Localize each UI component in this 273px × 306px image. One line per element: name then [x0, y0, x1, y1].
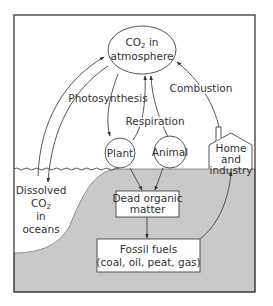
node-plant: Plant: [105, 138, 135, 168]
label-photosynthesis: Photosynthesis: [68, 92, 147, 104]
label-respiration: Respiration: [125, 115, 184, 127]
carbon-cycle-diagram: CO2 in atmosphere Photosynthesis Respira…: [0, 0, 273, 306]
node-dead-organic-matter: Dead organic matter: [113, 191, 183, 217]
plant-label: Plant: [107, 147, 133, 159]
oceans-subscript: 2: [47, 203, 51, 211]
node-atmosphere: CO2 in atmosphere: [108, 26, 176, 74]
oceans-label-line3: in: [36, 210, 46, 222]
oceans-label-line1: Dissolved: [16, 184, 67, 196]
atmosphere-label-line2: atmosphere: [111, 50, 174, 62]
atmosphere-in-text: in: [146, 36, 159, 48]
dead-matter-label-line2: matter: [130, 203, 166, 215]
atmosphere-co-text: CO: [126, 36, 142, 48]
oceans-label-line4: oceans: [22, 223, 59, 235]
label-combustion: Combustion: [170, 82, 233, 94]
fossil-fuels-label-line2: (coal, oil, peat, gas): [96, 256, 200, 268]
animal-label: Animal: [152, 146, 188, 158]
node-fossil-fuels: Fossil fuels (coal, oil, peat, gas): [96, 239, 200, 272]
oceans-co-text: CO: [31, 197, 47, 209]
fossil-fuels-label-line1: Fossil fuels: [120, 243, 177, 255]
